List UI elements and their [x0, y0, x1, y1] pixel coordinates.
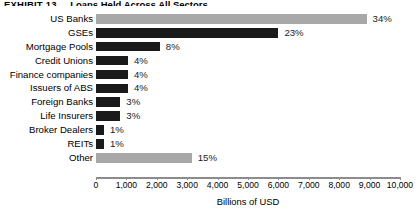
x-axis-tick-label: 6,000 [262, 180, 294, 190]
bar-track: 3% [96, 109, 400, 123]
category-label: Broker Dealers [29, 123, 93, 137]
x-axis-tick-label: 1,000 [110, 180, 142, 190]
bar-row: REITs1% [0, 137, 419, 151]
category-label: REITs [67, 137, 93, 151]
exhibit-number: EXHIBIT 13 [4, 0, 57, 6]
bar [96, 84, 128, 94]
x-axis-tick-label: 2,000 [141, 180, 173, 190]
bar [96, 14, 367, 24]
bar-rows: US Banks34%GSEs23%Mortgage Pools8%Credit… [0, 12, 419, 165]
bar-value-label: 1% [110, 137, 124, 151]
bar-row: Finance companies4% [0, 68, 419, 82]
x-axis-tick-label: 4,000 [202, 180, 234, 190]
bar-track: 4% [96, 54, 400, 68]
category-label: Credit Unions [35, 54, 93, 68]
bar-row: Life Insurers3% [0, 109, 419, 123]
category-label: Issuers of ABS [30, 81, 93, 95]
x-axis-tick-label: 9,000 [354, 180, 386, 190]
bar [96, 153, 192, 163]
bar [96, 56, 128, 66]
bar-row: Issuers of ABS4% [0, 81, 419, 95]
chart-title: Loans Held Across All Sectors [70, 0, 208, 6]
bar-track: 23% [96, 26, 400, 40]
exhibit-header: EXHIBIT 13 Loans Held Across All Sectors [4, 0, 208, 6]
x-axis-tick-label: 8,000 [323, 180, 355, 190]
bar-track: 1% [96, 137, 400, 151]
x-axis-title: Billions of USD [96, 196, 400, 207]
bar [96, 139, 104, 149]
bar [96, 111, 120, 121]
bar-track: 15% [96, 151, 400, 165]
bar-value-label: 4% [134, 54, 148, 68]
bar-track: 8% [96, 40, 400, 54]
bar-row: Foreign Banks3% [0, 95, 419, 109]
bar-row: GSEs23% [0, 26, 419, 40]
x-axis-tick-label: 7,000 [293, 180, 325, 190]
bar-row: Mortgage Pools8% [0, 40, 419, 54]
bar [96, 28, 278, 38]
bar [96, 125, 104, 135]
category-label: Mortgage Pools [26, 40, 93, 54]
bar [96, 70, 128, 80]
bar-value-label: 4% [134, 68, 148, 82]
x-axis-tick-label: 0 [80, 180, 112, 190]
bar-chart: US Banks34%GSEs23%Mortgage Pools8%Credit… [0, 12, 419, 213]
bar-value-label: 3% [126, 95, 140, 109]
bar-value-label: 1% [110, 123, 124, 137]
bar-row: Other15% [0, 151, 419, 165]
bar-row: US Banks34% [0, 12, 419, 26]
bar-value-label: 15% [198, 151, 217, 165]
category-label: Finance companies [10, 68, 93, 82]
bar-value-label: 23% [284, 26, 303, 40]
x-axis-line [96, 177, 400, 179]
bar-row: Broker Dealers1% [0, 123, 419, 137]
bar-track: 1% [96, 123, 400, 137]
bar-track: 3% [96, 95, 400, 109]
bar-track: 34% [96, 12, 400, 26]
category-label: Other [69, 151, 93, 165]
bar-track: 4% [96, 81, 400, 95]
bar-value-label: 8% [166, 40, 180, 54]
category-label: GSEs [68, 26, 93, 40]
category-label: Foreign Banks [31, 95, 93, 109]
bar-track: 4% [96, 68, 400, 82]
bar-row: Credit Unions4% [0, 54, 419, 68]
bar [96, 97, 120, 107]
x-axis-tick-label: 5,000 [232, 180, 264, 190]
bar-value-label: 4% [134, 81, 148, 95]
x-axis-tick-label: 3,000 [171, 180, 203, 190]
bar [96, 42, 160, 52]
category-label: Life Insurers [40, 109, 93, 123]
bar-value-label: 34% [373, 12, 392, 26]
category-label: US Banks [50, 12, 93, 26]
bar-value-label: 3% [126, 109, 140, 123]
x-axis-tick-label: 10,000 [384, 180, 416, 190]
